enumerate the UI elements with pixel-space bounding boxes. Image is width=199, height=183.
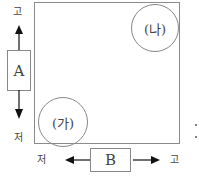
axis-b-label: B [105, 151, 116, 169]
axis-a-label: A [14, 62, 25, 80]
region-na-circle: (나) [131, 4, 179, 52]
arrow-down-icon [12, 90, 26, 120]
arrow-up-icon [12, 24, 26, 52]
axis-b-box: B [90, 148, 131, 172]
side-dot-bottom [195, 136, 197, 138]
region-ga-circle: (가) [38, 97, 88, 147]
region-na-label: (나) [144, 19, 166, 38]
axis-a-box: A [7, 50, 31, 91]
side-dot-top [195, 124, 197, 126]
horizontal-low-label: 저 [37, 155, 46, 165]
arrow-left-icon [64, 153, 92, 167]
arrow-right-icon [133, 153, 161, 167]
vertical-low-label: 저 [14, 133, 23, 143]
horizontal-high-label: 고 [170, 155, 179, 165]
vertical-high-label: 고 [13, 7, 22, 17]
region-ga-label: (가) [52, 113, 74, 132]
